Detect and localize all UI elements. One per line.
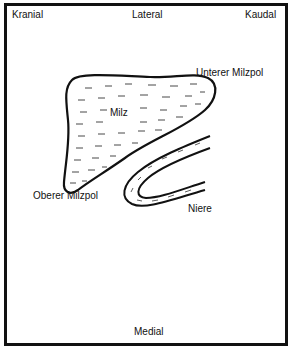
label-oberer-milzpol: Oberer Milzpol <box>33 190 98 201</box>
label-niere: Niere <box>188 203 212 214</box>
label-medial: Medial <box>134 326 163 337</box>
label-unterer-milzpol: Unterer Milzpol <box>196 67 263 78</box>
label-lateral: Lateral <box>132 9 163 20</box>
label-milz: Milz <box>110 107 128 118</box>
label-kranial: Kranial <box>12 9 43 20</box>
spleen-hatching <box>70 84 205 183</box>
kidney-outer-outline <box>124 136 210 206</box>
spleen-outline <box>64 75 215 193</box>
anatomy-drawing <box>0 0 289 350</box>
label-kaudal: Kaudal <box>245 9 276 20</box>
kidney-hatching <box>131 143 200 201</box>
kidney-inner-outline <box>138 148 210 198</box>
